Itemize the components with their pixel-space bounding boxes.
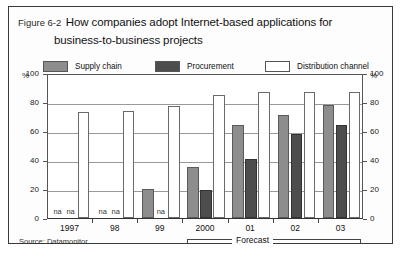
y-tick-label-right-40: 40 [370, 156, 392, 165]
x-axis-label-02: 02 [273, 223, 318, 233]
y-tick-label-left-0: 0 [17, 214, 39, 223]
y-tick-mark-right-60 [363, 132, 367, 133]
bar-02-distribution-channel [304, 92, 316, 218]
x-axis-label-99: 99 [137, 223, 182, 233]
bar-01-procurement [245, 159, 257, 218]
bar-01-distribution-channel [258, 92, 270, 218]
y-tick-label-left-20: 20 [17, 185, 39, 194]
figure-number: Figure 6-2 [18, 17, 61, 28]
x-axis-label-1997: 1997 [47, 223, 92, 233]
legend-label-distribution-channel: Distribution channel [297, 62, 369, 71]
y-tick-mark-right-100 [363, 74, 367, 75]
forecast-bracket-line [187, 239, 361, 240]
bar-2000-procurement [200, 190, 212, 218]
y-tick-mark-left-60 [43, 132, 47, 133]
bar-1997-distribution-channel [78, 112, 90, 218]
bar-98-distribution-channel [123, 111, 135, 218]
y-tick-label-left-80: 80 [17, 98, 39, 107]
x-axis-label-03: 03 [318, 223, 363, 233]
y-tick-mark-left-20 [43, 190, 47, 191]
figure-title-block: Figure 6-2 How companies adopt Internet-… [18, 12, 378, 48]
y-tick-mark-right-0 [363, 219, 367, 220]
x-axis-label-01: 01 [228, 223, 273, 233]
y-tick-mark-left-40 [43, 161, 47, 162]
legend-swatch-supply-chain [43, 61, 68, 72]
forecast-bracket: Forecast [47, 235, 363, 249]
y-tick-mark-right-80 [363, 103, 367, 104]
y-tick-mark-left-100 [43, 74, 47, 75]
x-axis-label-98: 98 [92, 223, 137, 233]
na-label-98-1: na [107, 207, 125, 216]
legend-swatch-distribution-channel [265, 61, 290, 72]
bar-99-distribution-channel [168, 106, 180, 218]
legend-swatch-procurement [155, 61, 180, 72]
bar-03-distribution-channel [349, 92, 361, 218]
x-axis: 199798992000010203 [47, 219, 363, 235]
forecast-bracket-cap-left [187, 239, 188, 244]
y-tick-mark-right-20 [363, 190, 367, 191]
x-axis-label-2000: 2000 [182, 223, 227, 233]
na-label-99-1: na [152, 207, 170, 216]
bar-2000-distribution-channel [213, 95, 225, 218]
y-tick-mark-left-0 [43, 219, 47, 220]
legend-item-procurement: Procurement [155, 59, 234, 73]
y-tick-label-right-80: 80 [370, 98, 392, 107]
legend-label-procurement: Procurement [187, 62, 234, 71]
legend-item-supply-chain: Supply chain [43, 59, 122, 73]
y-tick-label-left-60: 60 [17, 127, 39, 136]
bar-01-supply-chain [232, 125, 244, 218]
figure-frame: Figure 6-2 How companies adopt Internet-… [8, 6, 393, 244]
bar-2000-supply-chain [187, 167, 199, 218]
chart-legend: Supply chain Procurement Distribution ch… [43, 59, 373, 73]
bar-03-supply-chain [323, 105, 335, 218]
page-title-line2: business-to-business projects [54, 34, 203, 46]
bar-02-supply-chain [278, 115, 290, 218]
bar-02-procurement [291, 134, 303, 218]
page-title: How companies adopt Internet-based appli… [66, 16, 333, 28]
axis-percent-right: % [370, 71, 377, 80]
legend-label-supply-chain: Supply chain [75, 62, 122, 71]
na-label-1997-1: na [62, 207, 80, 216]
y-tick-label-left-40: 40 [17, 156, 39, 165]
y-tick-mark-right-40 [363, 161, 367, 162]
y-tick-label-right-60: 60 [370, 127, 392, 136]
y-tick-label-right-0: 0 [370, 214, 392, 223]
y-tick-mark-left-80 [43, 103, 47, 104]
bar-03-procurement [336, 125, 348, 218]
forecast-label: Forecast [232, 235, 273, 245]
plot-area: nanananana [47, 74, 363, 219]
y-tick-label-right-20: 20 [370, 185, 392, 194]
legend-item-distribution-channel: Distribution channel [265, 59, 369, 73]
source-note: Source: Datamonitor [19, 237, 88, 246]
forecast-bracket-cap-right [360, 239, 361, 244]
axis-percent-left: % [22, 71, 29, 80]
